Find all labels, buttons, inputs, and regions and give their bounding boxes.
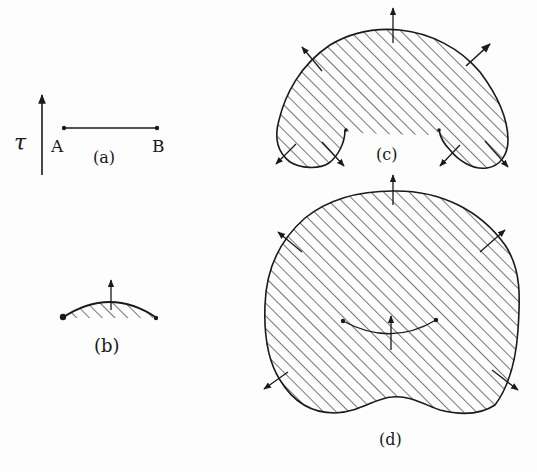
crack-c-right-tip bbox=[437, 128, 441, 132]
tau-label: τ bbox=[14, 132, 26, 154]
caption-a: (a) bbox=[93, 150, 115, 166]
point-a bbox=[62, 126, 66, 130]
caption-d: (d) bbox=[379, 432, 402, 448]
crack-b-left-tip bbox=[60, 314, 66, 320]
crack-d-left-tip bbox=[341, 319, 345, 323]
crack-b-right-tip bbox=[154, 316, 158, 320]
panel-b bbox=[60, 280, 158, 320]
panel-d bbox=[264, 175, 519, 413]
point-b bbox=[155, 126, 159, 130]
crack-d-right-tip bbox=[434, 318, 438, 322]
figure-canvas: τ A B (a) (b) (c) (d) bbox=[0, 0, 537, 472]
arrow-c-upright-icon bbox=[466, 44, 490, 66]
crack-c-left-tip bbox=[344, 128, 348, 132]
region-d bbox=[265, 191, 520, 413]
point-b-label: B bbox=[152, 138, 165, 155]
caption-b: (b) bbox=[94, 337, 120, 355]
point-a-label: A bbox=[51, 138, 63, 155]
caption-c: (c) bbox=[376, 147, 397, 163]
diagram-svg bbox=[0, 0, 537, 472]
